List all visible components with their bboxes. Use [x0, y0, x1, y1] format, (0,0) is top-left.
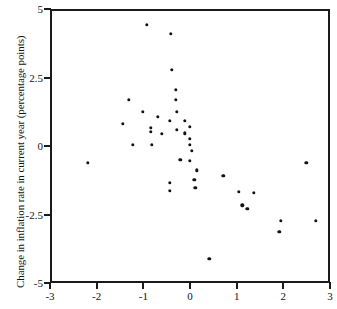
- x-axis-tick: [49, 282, 51, 289]
- y-axis-tick-label: 0: [1, 140, 43, 152]
- x-axis-tick: [96, 282, 98, 289]
- x-axis-tick: [189, 282, 191, 289]
- x-axis-tick-label: 1: [222, 290, 252, 302]
- y-axis-tick: [44, 8, 51, 10]
- x-axis-tick-label: -2: [82, 290, 112, 302]
- scatter-chart: Change in inflation rate in current year…: [0, 0, 337, 309]
- x-axis-tick-label: 0: [175, 290, 205, 302]
- x-axis-tick: [236, 282, 238, 289]
- y-axis-tick-label: 5: [1, 3, 43, 15]
- y-axis-tick-label: -5: [1, 277, 43, 289]
- x-axis-tick: [142, 282, 144, 289]
- y-axis-tick: [44, 214, 51, 216]
- x-axis-tick: [329, 282, 331, 289]
- x-axis-tick-label: -3: [35, 290, 65, 302]
- x-axis-tick-label: 2: [268, 290, 298, 302]
- x-axis-tick-label: -1: [128, 290, 158, 302]
- x-axis-tick: [282, 282, 284, 289]
- y-axis-tick-label: -2.5: [1, 209, 43, 221]
- plot-area: [50, 9, 330, 283]
- y-axis-tick-label: 2.5: [1, 72, 43, 84]
- x-axis-tick-label: 3: [315, 290, 337, 302]
- y-axis-tick: [44, 145, 51, 147]
- y-axis-tick: [44, 77, 51, 79]
